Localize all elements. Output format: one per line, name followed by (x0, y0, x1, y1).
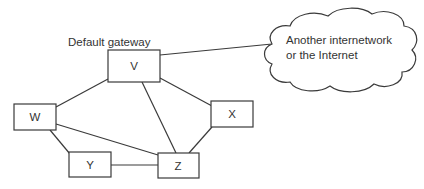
link-v-z (142, 82, 176, 153)
router-y-label: Y (86, 159, 94, 171)
cloud-label-line2: or the Internet (286, 49, 358, 61)
link-w-z (56, 124, 158, 155)
router-v-label: V (130, 60, 138, 72)
router-w-label: W (30, 111, 41, 123)
node-y: Y (69, 152, 111, 177)
link-x-z (189, 127, 212, 153)
router-z-label: Z (174, 160, 181, 172)
link-v-w (56, 79, 108, 107)
router-x-label: X (228, 108, 236, 120)
node-v: V (108, 50, 160, 82)
node-z: Z (158, 153, 199, 178)
link-v-cloud (160, 44, 272, 55)
link-v-x (160, 78, 212, 106)
cloud-label-line1: Another internetwork (286, 34, 392, 46)
link-w-y (50, 130, 70, 154)
network-diagram: Another internetwork or the Internet Def… (0, 0, 424, 189)
node-w: W (14, 104, 56, 130)
node-x: X (211, 101, 253, 127)
default-gateway-label: Default gateway (68, 36, 151, 48)
cloud-internet: Another internetwork or the Internet (265, 8, 417, 92)
